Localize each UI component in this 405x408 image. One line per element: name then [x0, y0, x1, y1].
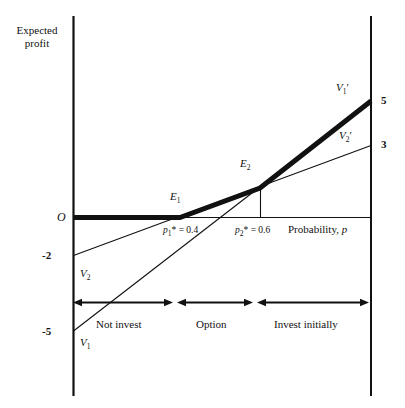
right-tick-3: 3 [381, 138, 387, 151]
curve-label-v2-prime: V2′ [339, 129, 352, 145]
curve-v1-prime-envelope [74, 101, 372, 218]
point-label-e1-sub: 1 [177, 196, 181, 205]
threshold-label-p2: p2* = 0.6 [235, 225, 270, 239]
y-axis-title-line1: Expected [8, 24, 66, 37]
x-axis-title-var: p [342, 223, 348, 235]
curve-label-v1-sub: 1 [87, 342, 91, 351]
y-tick-minus2: -2 [42, 249, 51, 262]
y-axis-title: Expected profit [8, 24, 66, 49]
threshold-p1-star: * [172, 225, 177, 235]
curve-label-v2: V2 [80, 267, 90, 283]
origin-label: O [57, 211, 66, 225]
threshold-p2-star: * [244, 225, 249, 235]
diagram-canvas [0, 0, 405, 408]
expected-profit-diagram: Expected profit O -2 -5 5 3 V2 V1 V1′ V2… [0, 0, 405, 408]
arrowhead-left-option [177, 299, 186, 306]
threshold-p2-eq: = 0.6 [251, 225, 271, 235]
arrowhead-left-invest-initially [257, 299, 266, 306]
arrowhead-right-not-invest [164, 299, 173, 306]
x-axis-title: Probability, p [288, 223, 347, 236]
region-label-not-invest: Not invest [96, 318, 142, 331]
threshold-label-p1: p1* = 0.4 [163, 225, 198, 239]
curve-label-v2-prime-mark: ′ [349, 129, 351, 141]
arrowhead-right-invest-initially [360, 299, 369, 306]
point-label-e1: E1 [170, 190, 180, 206]
curve-label-v2-sub: 2 [87, 273, 91, 282]
curve-label-v1: V1 [80, 336, 90, 352]
point-label-e2: E2 [240, 157, 250, 173]
point-label-e2-sub: 2 [247, 163, 251, 172]
region-arrows [73, 299, 369, 306]
x-axis-title-text: Probability, [288, 223, 339, 235]
y-tick-minus5: -5 [42, 325, 51, 338]
arrowhead-right-option [244, 299, 253, 306]
region-label-option: Option [196, 318, 227, 331]
curve-label-v1-prime-mark: ′ [346, 81, 348, 93]
curve-label-v1-prime: V1′ [336, 81, 349, 97]
threshold-p1-eq: = 0.4 [179, 225, 199, 235]
y-axis-title-line2: profit [8, 37, 66, 50]
region-label-invest-initially: Invest initially [274, 318, 338, 331]
right-tick-5: 5 [381, 94, 387, 107]
